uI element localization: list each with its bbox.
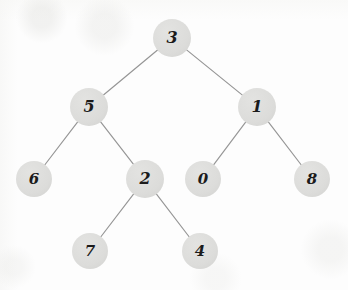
tree-node-4[interactable]: 4 — [182, 233, 218, 269]
tree-node-6[interactable]: 6 — [16, 161, 52, 197]
tree-node-8[interactable]: 8 — [294, 161, 330, 197]
tree-node-label: 6 — [29, 172, 39, 187]
tree-node-0[interactable]: 0 — [185, 161, 221, 197]
tree-diagram-canvas: 351620874 — [0, 0, 348, 290]
tree-edge — [213, 121, 246, 165]
tree-node-3[interactable]: 3 — [153, 19, 191, 57]
tree-node-2[interactable]: 2 — [126, 160, 164, 198]
tree-node-label: 1 — [251, 99, 262, 115]
tree-node-1[interactable]: 1 — [238, 88, 276, 126]
tree-node-label: 0 — [198, 172, 208, 187]
tree-edge — [186, 49, 243, 95]
tree-node-label: 5 — [83, 99, 94, 115]
tree-edge — [44, 121, 78, 165]
tree-node-label: 4 — [195, 244, 205, 259]
tree-edge — [156, 193, 190, 237]
tree-edge — [100, 193, 134, 237]
tree-edge — [103, 50, 158, 96]
tree-node-label: 7 — [85, 244, 95, 259]
tree-node-label: 3 — [166, 30, 177, 46]
tree-edge — [268, 121, 302, 165]
tree-node-5[interactable]: 5 — [70, 88, 108, 126]
tree-node-7[interactable]: 7 — [72, 233, 108, 269]
tree-edge — [100, 121, 134, 165]
tree-node-label: 2 — [139, 171, 150, 187]
tree-node-label: 8 — [307, 172, 317, 187]
